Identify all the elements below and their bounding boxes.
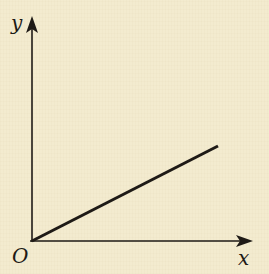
origin-label: O (12, 246, 28, 266)
y-axis-label: y (11, 13, 22, 33)
data-line (32, 146, 218, 241)
axes-svg (0, 0, 269, 274)
diagram-canvas: y x O (0, 0, 269, 274)
x-axis-label: x (238, 248, 249, 268)
